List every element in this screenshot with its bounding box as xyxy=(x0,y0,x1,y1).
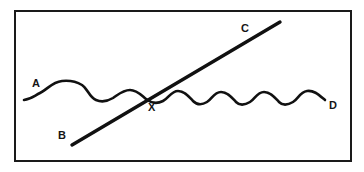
label-b: B xyxy=(58,130,66,141)
figure-canvas xyxy=(0,0,364,172)
label-c: C xyxy=(241,23,249,34)
figure-root: A B C D X xyxy=(0,0,364,172)
label-x-intersection: X xyxy=(148,102,155,113)
label-a: A xyxy=(32,78,40,89)
label-d: D xyxy=(329,100,337,111)
